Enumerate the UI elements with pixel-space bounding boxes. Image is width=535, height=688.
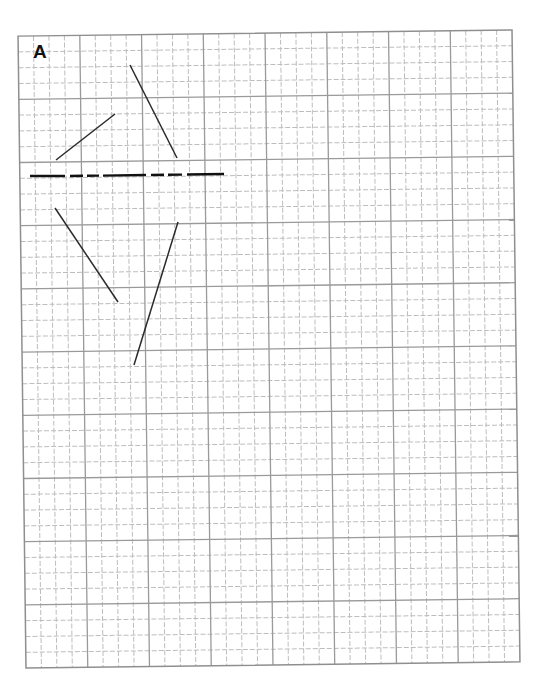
dashed-axis-segment [103,175,146,176]
dashed-axis-segment [187,174,224,175]
graph-paper-figure: A [0,0,535,688]
figure-label: A [33,41,47,62]
